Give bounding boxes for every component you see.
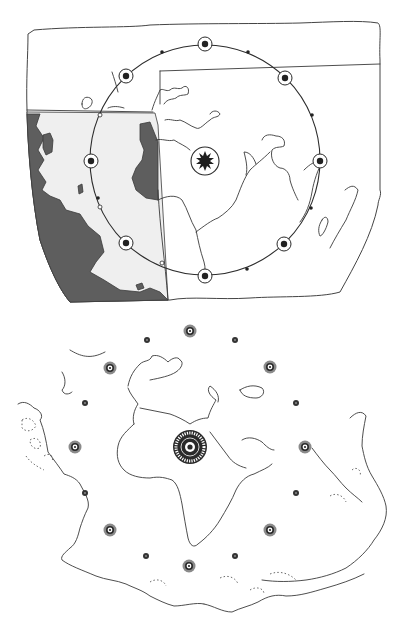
small-ring-dot-icon	[293, 490, 299, 496]
island-cluster-west	[22, 418, 53, 470]
small-ring-dot-icon	[82, 490, 88, 496]
coastline-south-bottom	[204, 574, 364, 612]
dark-dot-icon	[309, 206, 313, 210]
ring-marker-icon	[104, 524, 117, 537]
ring-marker-icon	[184, 325, 197, 338]
white-dot-icon	[98, 205, 102, 209]
small-ring-dot-icon	[82, 400, 88, 406]
small-ring-dot-icon	[144, 337, 150, 343]
island-cluster-south	[150, 572, 296, 594]
top-map	[27, 21, 381, 302]
coastline-west	[18, 350, 204, 606]
coastline-asia-bottom	[210, 386, 386, 582]
ring-marker-icon	[299, 441, 312, 454]
dark-dot-icon	[245, 267, 249, 271]
ring-marker-icon	[264, 361, 277, 374]
ring-marker-icon	[104, 362, 117, 375]
sun-marker-icon	[119, 236, 133, 250]
dark-dot-icon	[246, 50, 250, 54]
small-ring-dot-icon	[293, 400, 299, 406]
dark-dot-icon	[96, 196, 100, 200]
coastline-europe-bottom	[128, 355, 219, 424]
bottom-map	[18, 325, 386, 613]
wheel-icon	[173, 430, 207, 464]
shaded-island-2	[78, 184, 83, 194]
sun-marker-icon	[313, 154, 327, 168]
sun-marker-icon	[198, 269, 212, 283]
small-ring-dot-icon	[232, 553, 238, 559]
sun-marker-icon	[277, 237, 291, 251]
map-canvas	[0, 0, 408, 629]
ring-marker-icon	[69, 441, 82, 454]
dark-dot-icon	[160, 50, 164, 54]
sun-marker-icon	[119, 69, 133, 83]
white-dot-icon	[160, 261, 164, 265]
ring-marker-icon	[264, 524, 277, 537]
sun-marker-icon	[198, 37, 212, 51]
dark-dot-icon	[310, 113, 314, 117]
small-ring-dot-icon	[143, 553, 149, 559]
map-figure	[0, 0, 408, 629]
ring-marker-icon	[183, 560, 196, 573]
white-dot-icon	[98, 113, 102, 117]
sun-marker-icon	[278, 71, 292, 85]
shaded-island-1	[43, 133, 53, 155]
sun-burst-icon	[191, 147, 219, 175]
sun-marker-icon	[84, 154, 98, 168]
small-ring-dot-icon	[232, 337, 238, 343]
